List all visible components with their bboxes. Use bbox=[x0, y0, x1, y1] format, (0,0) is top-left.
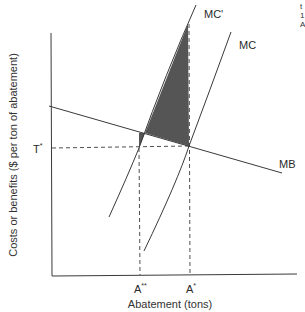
a-double-star-sup: ** bbox=[141, 282, 147, 289]
t-star-dashed-line bbox=[52, 146, 189, 148]
x-axis-title: Abatement (tons) bbox=[128, 298, 212, 310]
a-star-dashed-line bbox=[189, 24, 190, 275]
mb-label: MB bbox=[279, 158, 296, 170]
fragment-line-3: A bbox=[300, 20, 305, 29]
fragment-line-2: 1 bbox=[300, 11, 305, 20]
mc-label: MC bbox=[239, 39, 256, 51]
a-star-label: A* bbox=[186, 282, 196, 295]
a-double-star-label: A** bbox=[134, 282, 147, 295]
fragment-line-1: t bbox=[300, 2, 305, 11]
mc-prime-label: MC' bbox=[204, 8, 223, 20]
y-axis bbox=[51, 33, 52, 276]
abatement-chart: MC' MC MB T* A** A* Abatement (tons) Cos… bbox=[0, 0, 305, 312]
x-axis bbox=[52, 274, 297, 276]
a-star-sup: * bbox=[193, 282, 196, 289]
t-star-label: T* bbox=[33, 142, 43, 155]
a-double-star-dashed-line bbox=[139, 148, 140, 275]
cropped-text-fragment: t 1 A bbox=[300, 2, 305, 29]
y-axis-title: Costs or benefits ($ per ton of abatemen… bbox=[7, 53, 19, 257]
shaded-area-main bbox=[145, 24, 189, 146]
t-star-sup: * bbox=[40, 142, 43, 149]
